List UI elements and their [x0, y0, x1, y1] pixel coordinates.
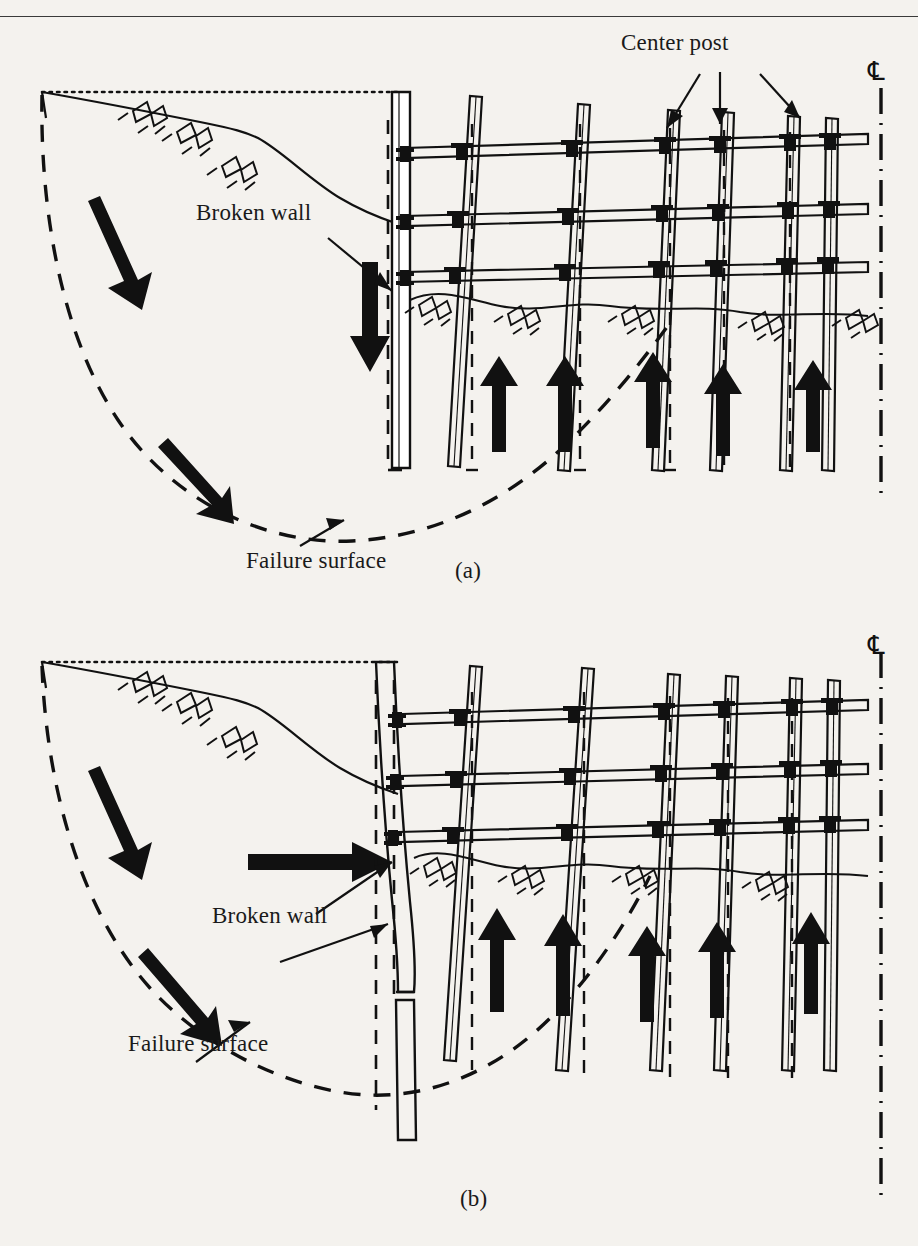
broken-wall-pointer-b2 — [280, 924, 388, 962]
centerline-symbol-b: ℄ — [868, 630, 885, 661]
center-post — [822, 118, 838, 471]
figure-canvas: Center post Broken wall Failure surface … — [0, 0, 918, 1246]
label-panel-b: (b) — [460, 1186, 487, 1212]
heave-arrows-a — [480, 352, 832, 456]
label-failure-surface-b: Failure surface — [128, 1031, 268, 1057]
center-post — [824, 680, 840, 1071]
label-broken-wall-a: Broken wall — [196, 200, 311, 226]
slope-movement-arrows-a — [88, 196, 234, 524]
broken-wall-pointer-a — [328, 238, 392, 291]
center-post — [782, 678, 802, 1071]
panel-b-drawing — [0, 640, 918, 1240]
label-broken-wall-b: Broken wall — [212, 903, 327, 929]
slope-hatch-b — [118, 672, 257, 760]
panel-a-drawing — [0, 0, 918, 600]
base-hatch-a — [405, 297, 878, 341]
wall-b — [376, 662, 416, 1140]
slope-movement-arrows-b — [88, 766, 222, 1046]
slope-hatch-a — [118, 102, 257, 190]
strut-connections-b — [384, 698, 843, 846]
centerline-symbol-a: ℄ — [868, 56, 885, 87]
excavation-base-line-a — [410, 294, 868, 316]
center-posts-a — [448, 96, 838, 471]
heave-arrows-b — [478, 908, 830, 1022]
label-center-post: Center post — [621, 30, 729, 56]
label-failure-surface-a: Failure surface — [246, 548, 386, 574]
label-panel-a: (a) — [455, 558, 481, 584]
